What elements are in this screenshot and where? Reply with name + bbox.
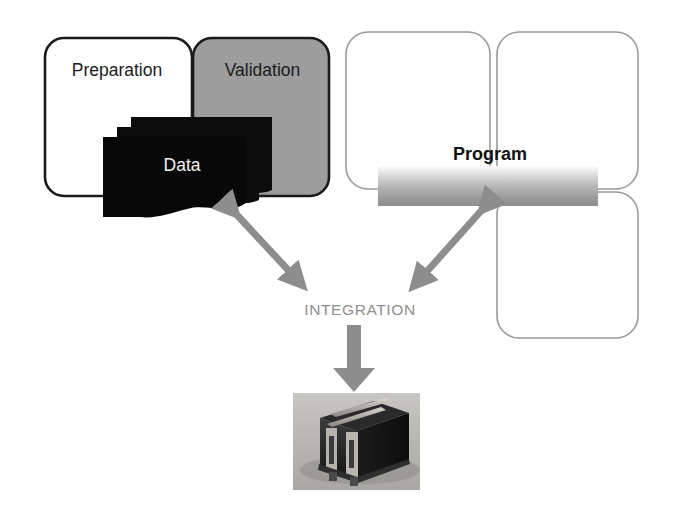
- data-sheet-stack: [103, 117, 272, 217]
- panel-top-left: [346, 32, 490, 189]
- diagram-canvas: Preparation Validation Data Program INTE…: [0, 0, 675, 531]
- data-sheet-front: [103, 137, 246, 217]
- arrow-integration-hardware: [333, 325, 375, 392]
- rack-foot-right: [350, 477, 358, 486]
- diagram-vector-layer: [0, 0, 675, 531]
- connector-arrow-group: [237, 211, 481, 287]
- program-bar: [378, 166, 598, 206]
- arrow-program-integration: [413, 211, 481, 287]
- panel-top-right: [497, 32, 638, 189]
- arrow-data-integration: [237, 215, 303, 286]
- front-module-left-vent: [329, 436, 334, 464]
- panel-bottom-right: [497, 192, 638, 338]
- server-photo: [293, 393, 420, 490]
- program-bar-group: [378, 166, 598, 206]
- front-module-right-vent: [349, 440, 354, 468]
- rack-foot-left: [329, 472, 337, 481]
